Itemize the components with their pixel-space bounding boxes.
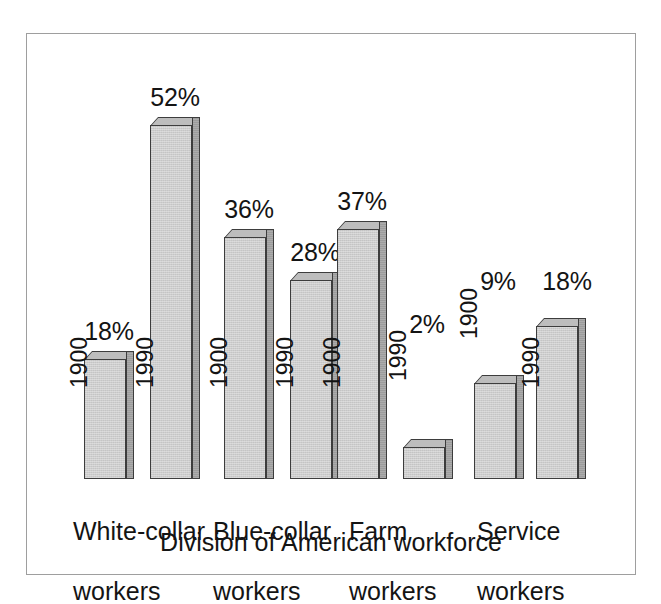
chart-caption: Division of American workforce [27,528,635,557]
bar-value-label-farm-1990: 2% [391,310,463,339]
bar-blue-collar-1900: 1900 [224,229,274,479]
bar-year-label: 1990 [132,337,159,388]
bar-value-label-white-collar-1990: 52% [135,83,215,112]
bar-farm-1990 [403,417,453,479]
bar-service-1990: 1990 [536,318,586,479]
bar-white-collar-1900: 1900 [84,351,134,479]
bar-front-face [403,447,445,479]
bar-side-face [192,117,200,479]
bar-value-label-service-1900: 9% [462,267,534,296]
bar-side-face [445,439,453,479]
category-label-line2: workers [477,577,565,604]
bar-year-label: 1900 [206,337,233,388]
bar-year-label: 1990 [518,337,545,388]
chart-plot-area: 1900 18% 1990 52% 1900 36% 1990 28% [27,34,635,574]
bar-farm-1900: 1900 [337,221,387,479]
bar-year-label: 1900 [319,337,346,388]
category-label-line2: workers [349,577,437,604]
bar-front-face [474,383,516,479]
chart-figure: 1900 18% 1990 52% 1900 36% 1990 28% [26,33,636,575]
category-label-line2: workers [213,577,301,604]
bar-value-label-farm-1900: 37% [322,187,402,216]
bar-service-1900 [474,375,524,479]
bar-value-label-blue-collar-1900: 36% [209,195,289,224]
bar-front-face [150,125,192,479]
bar-side-face [516,375,524,479]
bar-year-label: 1990 [272,337,299,388]
bar-value-label-service-1990: 18% [527,267,607,296]
category-label-line2: workers [73,577,161,604]
bar-side-face [578,318,586,479]
bar-white-collar-1990: 1990 [150,117,200,479]
